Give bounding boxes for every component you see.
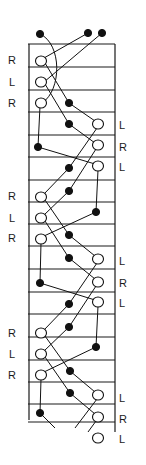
- filled-dot-node: [34, 143, 41, 150]
- filled-dot-node: [36, 279, 43, 286]
- connection-edge: [96, 170, 98, 212]
- filled-dot-node: [65, 164, 72, 171]
- filled-dot-node: [65, 323, 72, 330]
- right-label: L: [119, 161, 125, 173]
- connection-edge: [40, 243, 41, 283]
- open-circle-node: [93, 433, 104, 443]
- connection-edge: [38, 147, 95, 164]
- open-circle-node: [93, 140, 104, 150]
- left-label: L: [9, 76, 15, 88]
- left-label: L: [9, 348, 15, 360]
- left-label: R: [8, 97, 16, 109]
- left-label: R: [8, 327, 16, 339]
- open-circle-node: [93, 297, 104, 307]
- open-circle-node: [93, 277, 104, 287]
- right-label: R: [119, 277, 127, 289]
- connection-edge: [44, 191, 69, 215]
- filled-dot-node: [65, 187, 72, 194]
- open-circle-node: [36, 349, 47, 359]
- right-label: R: [119, 141, 127, 153]
- connection-edge: [69, 149, 96, 191]
- left-label: L: [9, 212, 15, 224]
- filled-dot-node: [92, 343, 99, 350]
- filled-dot-node: [92, 208, 99, 215]
- right-side-labels: LRLLRLLRL: [119, 119, 127, 445]
- filled-dot-node: [65, 231, 72, 238]
- open-circle-node: [36, 213, 47, 223]
- filled-dot-node: [84, 29, 91, 36]
- left-label: R: [8, 232, 16, 244]
- right-label: R: [119, 413, 127, 425]
- open-circle-node: [36, 192, 47, 202]
- connection-edge: [88, 421, 96, 432]
- left-side-labels: RLRRLRRLR: [8, 54, 16, 381]
- ladder-nodes: [34, 29, 105, 443]
- connection-edge: [45, 357, 70, 393]
- connection-edge: [44, 33, 88, 58]
- right-label: L: [119, 119, 125, 131]
- filled-dot-node: [36, 409, 43, 416]
- connection-edge: [96, 306, 98, 347]
- connection-edge: [44, 33, 102, 82]
- open-circle-node: [93, 254, 104, 264]
- connection-edge: [69, 124, 95, 143]
- open-circle-node: [93, 390, 104, 400]
- open-circle-node: [93, 161, 104, 171]
- filled-dot-node: [65, 99, 72, 106]
- left-label: R: [8, 54, 16, 66]
- right-label: L: [119, 255, 125, 267]
- open-circle-node: [36, 328, 47, 338]
- open-circle-node: [93, 119, 104, 129]
- open-circle-node: [36, 77, 47, 87]
- filled-dot-node: [65, 300, 72, 307]
- connection-edge: [40, 379, 41, 413]
- open-circle-node: [36, 56, 47, 66]
- right-label: L: [119, 297, 125, 309]
- open-circle-node: [36, 234, 47, 244]
- open-circle-node: [93, 412, 104, 422]
- left-label: R: [8, 190, 16, 202]
- filled-dot-node: [65, 254, 72, 261]
- right-label: L: [119, 392, 125, 404]
- open-circle-node: [36, 370, 47, 380]
- left-label: R: [8, 369, 16, 381]
- filled-dot-node: [66, 389, 73, 396]
- open-circle-node: [36, 98, 47, 108]
- filled-dot-node: [66, 367, 73, 374]
- filled-dot-node: [98, 29, 105, 36]
- filled-dot-node: [36, 30, 43, 37]
- rl-ladder-diagram: RLRRLRRLR LRLLRLLRL: [0, 0, 146, 465]
- filled-dot-node: [65, 120, 72, 127]
- right-label: L: [119, 433, 125, 445]
